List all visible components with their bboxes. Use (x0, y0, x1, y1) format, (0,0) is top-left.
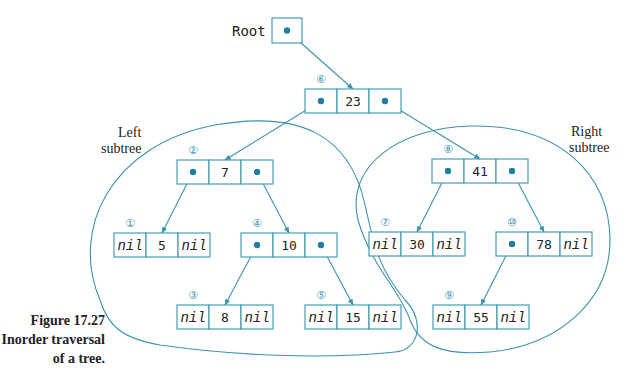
figure-caption: Figure 17.27 Inorder traversal of a tree… (0, 311, 105, 368)
right-nil-label: nil (372, 310, 397, 326)
tree-node-5: nilnil5① (114, 217, 210, 257)
node-value: 41 (472, 164, 488, 179)
caption-line-1: Inorder traversal (0, 330, 105, 349)
right-nil-label: nil (500, 310, 525, 326)
pointer-dot-icon (254, 242, 260, 248)
right-nil-label: nil (436, 237, 461, 253)
left-nil-label: nil (180, 310, 205, 326)
left-nil-label: nil (372, 237, 397, 253)
node-value: 23 (345, 94, 361, 109)
pointer-dot-icon (190, 169, 196, 175)
pointer-dot-icon (382, 98, 388, 104)
pointer-dot-icon (509, 241, 515, 247)
pointer-dot-icon (318, 242, 324, 248)
traversal-order-badge: ⑥ (316, 73, 326, 86)
caption-line-2: of a tree. (0, 349, 105, 368)
traversal-order-badge: ⑧ (443, 143, 453, 156)
traversal-order-badge: ③ (188, 289, 198, 302)
node-value: 15 (345, 310, 361, 325)
pointer-dot-icon (445, 168, 451, 174)
traversal-order-badge: ⑩ (507, 216, 517, 229)
tree-node-55: nilnil55⑨ (433, 289, 529, 329)
node-value: 30 (409, 237, 425, 252)
node-value: 7 (221, 165, 229, 180)
root-label: Root (232, 23, 266, 39)
left-nil-label: nil (436, 310, 461, 326)
traversal-order-badge: ⑦ (380, 216, 390, 229)
tree-node-15: nilnil15⑤ (305, 289, 401, 329)
traversal-order-badge: ⑤ (316, 289, 326, 302)
tree-node-30: nilnil30⑦ (369, 216, 465, 256)
left-subtree-label-line2: subtree (101, 141, 141, 156)
tree-node-10: 10④ (241, 217, 337, 257)
left-subtree-label-line1: Left (118, 125, 141, 140)
traversal-order-badge: ② (188, 144, 198, 157)
nodes-layer: 23⑥7②41⑧nilnil5①10④nilnil30⑦nil78⑩nilnil… (114, 73, 592, 329)
node-value: 10 (281, 238, 297, 253)
tree-node-23: 23⑥ (305, 73, 401, 113)
left-nil-label: nil (117, 238, 142, 254)
node-value: 55 (473, 310, 489, 325)
traversal-order-badge: ④ (252, 217, 262, 230)
root-pointer-box (272, 18, 302, 43)
right-subtree-label-line1: Right (571, 124, 602, 139)
tree-node-7: 7② (177, 144, 273, 184)
right-nil-label: nil (244, 310, 269, 326)
right-subtree-label-line2: subtree (569, 140, 609, 155)
pointer-dot-icon (318, 98, 324, 104)
pointer-dot-icon (284, 27, 290, 33)
pointer-dot-icon (254, 169, 260, 175)
right-nil-label: nil (181, 238, 206, 254)
left-nil-label: nil (308, 310, 333, 326)
pointer-dot-icon (509, 168, 515, 174)
node-value: 5 (158, 238, 166, 253)
node-value: 78 (536, 237, 552, 252)
tree-node-41: 41⑧ (432, 143, 528, 183)
tree-node-78: nil78⑩ (496, 216, 592, 256)
figure-number: Figure 17.27 (0, 311, 105, 330)
traversal-order-badge: ① (125, 217, 135, 230)
node-value: 8 (221, 310, 229, 325)
traversal-order-badge: ⑨ (444, 289, 454, 302)
right-nil-label: nil (563, 237, 588, 253)
tree-node-8: nilnil8③ (177, 289, 273, 329)
